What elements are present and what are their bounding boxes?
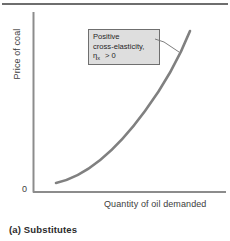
origin-tick-label: 0: [22, 184, 27, 194]
y-axis-label-text: Price of coal: [12, 29, 22, 80]
x-axis-label: Quantity of oil demanded: [104, 199, 206, 209]
cross-elasticity-callout: Positive cross-elasticity, ηx> 0: [88, 29, 160, 65]
figure-container: Price of coal Quantity of oil demanded 0…: [0, 0, 230, 241]
callout-line-1: Positive: [93, 32, 120, 41]
callout-formula: ηx> 0: [93, 51, 156, 61]
relation-text: > 0: [100, 51, 116, 60]
y-axis-label: Price of coal: [10, 14, 24, 94]
callout-leader-line: [155, 33, 185, 59]
leader-polyline: [155, 39, 179, 52]
eta-subscript: x: [97, 55, 100, 61]
top-divider-rule: [2, 3, 228, 5]
callout-line-2: cross-elasticity,: [93, 42, 144, 51]
figure-caption: (a) Substitutes: [9, 224, 77, 235]
